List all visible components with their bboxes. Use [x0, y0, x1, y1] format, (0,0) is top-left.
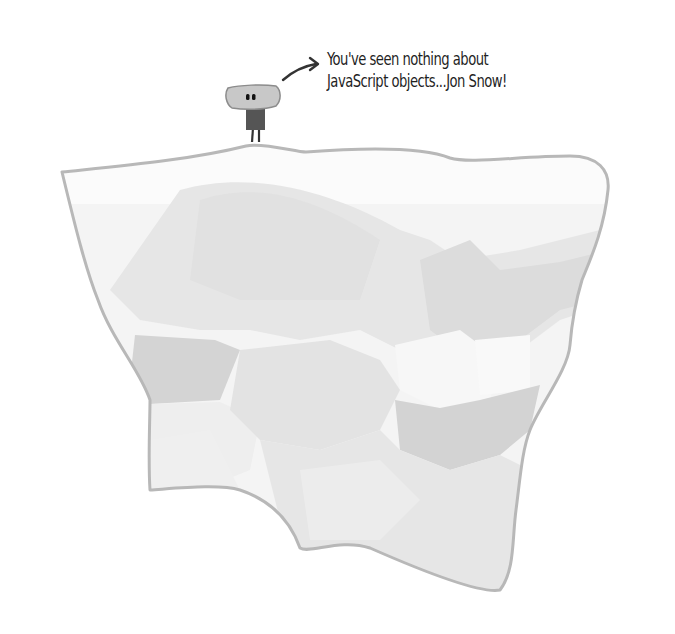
caption-line-2: JavaScript objects...Jon Snow! — [327, 70, 507, 92]
robot-character — [226, 85, 280, 142]
iceberg-svg — [0, 0, 675, 634]
caption-line-1: You've seen nothing about — [327, 48, 507, 70]
robot-eye-left — [246, 94, 250, 100]
speech-caption: You've seen nothing about JavaScript obj… — [327, 48, 507, 92]
robot-body — [246, 108, 265, 130]
iceberg-illustration: You've seen nothing about JavaScript obj… — [0, 0, 675, 634]
robot-eye-right — [252, 94, 256, 100]
arrow-icon — [283, 58, 318, 80]
robot-leg-left — [252, 128, 253, 142]
